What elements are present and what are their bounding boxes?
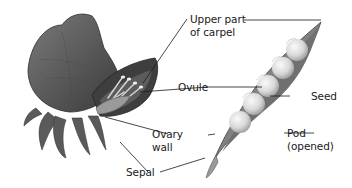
label-upper-carpel-1: Upper part bbox=[190, 13, 246, 25]
label-ovule: Ovule bbox=[178, 81, 208, 93]
label-pod-2: (opened) bbox=[287, 140, 334, 152]
label-seed: Seed bbox=[311, 90, 337, 102]
label-upper-carpel-2: of carpel bbox=[190, 26, 235, 38]
diagram: Upper part of carpel Ovule Seed Ovary wa… bbox=[0, 0, 352, 188]
pea-pod-icon bbox=[206, 22, 321, 178]
label-ovary-wall-2: wall bbox=[152, 141, 172, 153]
label-ovary-wall-1: Ovary bbox=[152, 128, 183, 140]
label-sepal: Sepal bbox=[126, 166, 155, 178]
illustration bbox=[0, 0, 352, 188]
label-pod-1: Pod bbox=[287, 127, 306, 139]
flower-icon bbox=[24, 14, 158, 158]
seed-group bbox=[229, 39, 308, 133]
